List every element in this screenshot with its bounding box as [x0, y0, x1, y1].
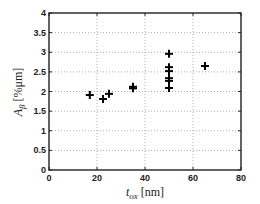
y-tick-labels: 00.511.522.533.54	[33, 8, 46, 175]
plus-marker-icon	[105, 90, 113, 98]
plus-marker-icon	[201, 62, 209, 70]
y-tick-label: 3	[41, 47, 46, 57]
scatter-chart: 020406080 00.511.522.533.54 tox [nm] Aβ …	[0, 0, 260, 204]
x-tick-label: 20	[92, 173, 102, 183]
plus-marker-icon	[86, 91, 94, 99]
x-axis-label: tox [nm]	[126, 185, 164, 201]
y-tick-label: 4	[41, 8, 46, 18]
data-points	[86, 50, 209, 103]
y-tick-label: 0.5	[33, 145, 46, 155]
y-tick-label: 2.5	[33, 67, 46, 77]
y-tick-label: 2	[41, 87, 46, 97]
x-tick-labels: 020406080	[46, 173, 246, 183]
x-tick-label: 60	[188, 173, 198, 183]
x-tick-label: 40	[140, 173, 150, 183]
plus-marker-icon	[165, 67, 173, 75]
y-tick-label: 1	[41, 126, 46, 136]
y-tick-label: 1.5	[33, 106, 46, 116]
plus-marker-icon	[129, 83, 137, 91]
x-tick-label: 80	[236, 173, 246, 183]
x-tick-label: 0	[46, 173, 51, 183]
plus-marker-icon	[165, 84, 173, 92]
grid-lines	[49, 13, 241, 170]
y-axis-label: Aβ [%μm]	[11, 68, 27, 118]
y-tick-label: 3.5	[33, 28, 46, 38]
plus-marker-icon	[165, 50, 173, 58]
plus-marker-icon	[99, 95, 107, 103]
y-tick-label: 0	[41, 165, 46, 175]
